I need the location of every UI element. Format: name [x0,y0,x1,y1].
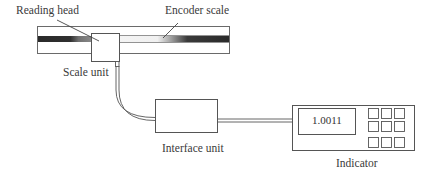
scale-unit-label: Scale unit [63,66,109,78]
indicator-label: Indicator [336,157,378,169]
indicator [293,106,415,151]
keypad-button[interactable] [395,122,405,132]
interface-unit-label: Interface unit [162,142,224,154]
keypad-button[interactable] [369,138,379,148]
indicator-keypad [369,109,405,148]
keypad-button[interactable] [395,138,405,148]
interface-unit-box [156,100,218,133]
keypad-button[interactable] [369,122,379,132]
scale-unit-connector [116,62,120,67]
encoder-scale [38,27,230,54]
indicator-display-value: 1.0011 [312,114,342,126]
indicator-cable [218,119,293,122]
scale-cable [116,66,155,121]
encoder-scale-label: Encoder scale [165,4,229,16]
keypad-button[interactable] [382,138,392,148]
keypad-button[interactable] [369,109,379,119]
scale-unit-box [92,34,120,62]
keypad-button[interactable] [382,122,392,132]
keypad-button[interactable] [395,109,405,119]
keypad-button[interactable] [382,109,392,119]
reading-head-label: Reading head [16,4,79,16]
